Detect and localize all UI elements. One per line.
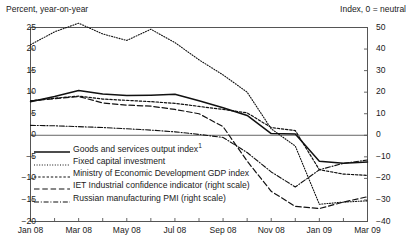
- y-axis-left-tick: 0: [12, 129, 36, 139]
- x-axis-tick: Jan 09: [294, 225, 344, 235]
- legend-key: [33, 193, 71, 203]
- x-axis-tick: Nov 08: [246, 225, 296, 235]
- y-axis-left-tick: 20: [12, 43, 36, 53]
- y-axis-left-tick: −5: [12, 151, 36, 161]
- legend-key: [33, 168, 71, 178]
- legend-label: Fixed capital investment: [71, 156, 165, 166]
- x-axis-tick: Jul 08: [150, 225, 200, 235]
- legend-key: [33, 180, 71, 190]
- y-axis-left-tick: −15: [12, 194, 36, 204]
- y-axis-right-tick: −30: [376, 194, 402, 204]
- y-axis-right-tick: 0: [376, 129, 402, 139]
- y-axis-left-tick: 15: [12, 65, 36, 75]
- y-axis-left-tick: −20: [12, 216, 36, 226]
- y-axis-right-tick: 30: [376, 65, 402, 75]
- y-axis-left-tick: 5: [12, 108, 36, 118]
- y-axis-right-tick: 50: [376, 22, 402, 32]
- x-axis-tick: Sep 08: [198, 225, 248, 235]
- legend-footnote-marker: 1: [198, 142, 202, 149]
- chart-canvas: [0, 0, 412, 247]
- y-axis-right-tick: −20: [376, 172, 402, 182]
- legend-key: [33, 143, 71, 153]
- legend-label: IET Industrial confidence indicator (rig…: [71, 180, 250, 190]
- legend-label: Goods and services output index1: [71, 142, 202, 154]
- legend-item: Russian manufacturing PMI (right scale): [33, 192, 250, 204]
- x-axis-tick: Mar 09: [343, 225, 393, 235]
- x-axis-tick: May 08: [102, 225, 152, 235]
- y-axis-left-tick: −10: [12, 172, 36, 182]
- legend-item: IET Industrial confidence indicator (rig…: [33, 179, 250, 191]
- x-axis-tick: Mar 08: [54, 225, 104, 235]
- legend-label: Russian manufacturing PMI (right scale): [71, 193, 226, 203]
- y-axis-right-tick: −40: [376, 216, 402, 226]
- y-axis-right-tick: −10: [376, 151, 402, 161]
- legend-label: Ministry of Economic Development GDP ind…: [71, 168, 249, 178]
- y-axis-right-tick: 10: [376, 108, 402, 118]
- legend-item: Goods and services output index1: [33, 142, 250, 154]
- x-axis-tick: Jan 08: [6, 225, 56, 235]
- legend-key: [33, 156, 71, 166]
- y-axis-left-tick: 10: [12, 86, 36, 96]
- y-axis-left-tick: 25: [12, 22, 36, 32]
- y-axis-right-tick: 20: [376, 86, 402, 96]
- legend-item: Fixed capital investment: [33, 154, 250, 166]
- legend-item: Ministry of Economic Development GDP ind…: [33, 167, 250, 179]
- chart-legend: Goods and services output index1Fixed ca…: [33, 142, 250, 204]
- y-axis-right-tick: 40: [376, 43, 402, 53]
